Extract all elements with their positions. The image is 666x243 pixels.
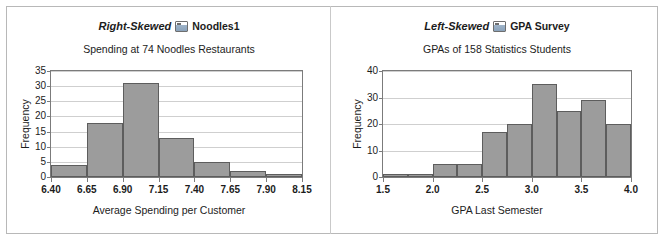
histogram-bar [230,171,266,177]
histogram-bar [581,100,606,177]
histogram-bar [123,83,159,177]
x-tick-label: 7.90 [256,185,275,195]
x-tick-label: 3.5 [574,185,588,195]
histogram-bar [383,174,408,177]
histogram-bar [557,111,582,177]
y-axis-label-left: Frequency [19,89,31,159]
x-tick-label: 7.15 [149,185,168,195]
dataset-label: GPA Survey [510,20,570,32]
x-tickmark [383,178,384,182]
y-tick-label: 10 [367,146,378,156]
histogram-bar [507,124,532,177]
y-tick-label: 5 [40,157,46,167]
histogram-bar [87,123,123,178]
y-tick-label: 30 [367,93,378,103]
skew-label: Left-Skewed [424,20,489,32]
histogram-bars-left [51,71,302,177]
worksheet-icon [493,21,506,32]
y-tick-label: 35 [35,66,46,76]
x-tick-label: 7.65 [221,185,240,195]
histogram-bar [532,84,557,177]
x-tick-label: 1.5 [376,185,390,195]
x-axis-label-right: GPA Last Semester [334,204,660,216]
x-tick-label: 2.0 [426,185,440,195]
chart-panel-right-skewed: Right-SkewedNoodles1 Spending at 74 Nood… [6,6,332,234]
y-tick-label: 0 [40,172,46,182]
dataset-label: Noodles1 [192,20,239,32]
y-tick-label: 40 [367,66,378,76]
histogram-bar [266,174,302,177]
y-tick-label: 20 [35,111,46,121]
y-tick-label: 30 [35,81,46,91]
chart-panel-left-skewed: Left-SkewedGPA Survey GPAs of 158 Statis… [334,6,660,234]
x-tickmark [159,178,160,182]
y-tick-label: 0 [372,172,378,182]
chart-title-left: Spending at 74 Noodles Restaurants [6,43,332,55]
x-axis-label-left: Average Spending per Customer [6,204,332,216]
chart-title-right: GPAs of 158 Statistics Students [334,43,660,55]
skew-label: Right-Skewed [99,20,172,32]
histogram-bar [457,164,482,177]
x-tickmark [433,178,434,182]
x-tick-label: 3.0 [525,185,539,195]
x-tick-label: 8.15 [292,185,311,195]
x-tickmark [482,178,483,182]
x-tickmark [87,178,88,182]
worksheet-icon [175,21,188,32]
y-tick-label: 20 [367,119,378,129]
histogram-bar [408,174,433,177]
x-tickmark [51,178,52,182]
x-tick-label: 6.90 [113,185,132,195]
x-tick-label: 7.40 [185,185,204,195]
x-tickmark [581,178,582,182]
x-tickmark [123,178,124,182]
x-tick-label: 6.65 [77,185,96,195]
histogram-bars-right [383,71,631,177]
histogram-bar [606,124,631,177]
x-tickmark [266,178,267,182]
histogram-bar [482,132,507,177]
x-tickmark [194,178,195,182]
histogram-bar [51,165,87,177]
histogram-bar [159,138,195,177]
y-tick-label: 25 [35,96,46,106]
x-tickmark [230,178,231,182]
x-tick-label: 2.5 [475,185,489,195]
histogram-bar [433,164,458,177]
x-tickmark [302,178,303,182]
plot-area-right [382,70,632,178]
x-tickmark [532,178,533,182]
panel-header-right: Left-SkewedGPA Survey [334,20,660,32]
histogram-bar [194,162,230,177]
y-axis-label-right: Frequency [351,89,363,159]
plot-area-left [50,70,303,178]
x-tick-label: 6.40 [41,185,60,195]
y-tick-label: 10 [35,142,46,152]
y-tick-label: 15 [35,127,46,137]
x-tickmark [631,178,632,182]
panel-header-left: Right-SkewedNoodles1 [6,20,332,32]
x-tick-label: 4.0 [624,185,638,195]
